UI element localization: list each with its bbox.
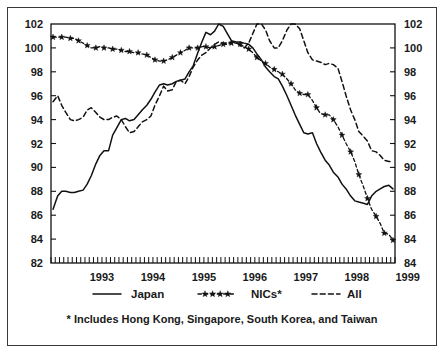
y-axis-left-tick-label: 96 xyxy=(31,90,43,102)
x-axis-tick-label: 1996 xyxy=(243,271,267,283)
y-axis-left-tick-label: 88 xyxy=(31,185,43,197)
series-marker xyxy=(135,50,141,56)
series-line xyxy=(53,37,393,240)
y-axis-left-tick-label: 100 xyxy=(25,42,43,54)
legend-swatch-marker xyxy=(217,291,223,297)
series-marker xyxy=(348,149,354,155)
y-axis-right-tick-label: 98 xyxy=(404,66,416,78)
x-axis-minor-ticks xyxy=(51,257,395,263)
y-axis-left-tick-label: 82 xyxy=(31,257,43,269)
y-axis-left-tick-label: 102 xyxy=(25,18,43,30)
chart-footnote: * Includes Hong Kong, Singapore, South K… xyxy=(67,313,378,325)
x-axis-tick-label: 1994 xyxy=(141,271,166,283)
legend-label: NICs* xyxy=(251,288,282,300)
x-axis-tick-label: 1997 xyxy=(294,271,318,283)
legend-swatch-marker xyxy=(225,291,231,297)
series-marker xyxy=(314,105,320,111)
series-marker xyxy=(84,42,90,48)
series-marker xyxy=(152,57,158,63)
series-marker xyxy=(118,47,124,53)
x-axis-tick-label: 1999 xyxy=(395,271,419,283)
y-axis-right-tick-label: 102 xyxy=(404,18,422,30)
series-line xyxy=(53,24,393,209)
line-chart-canvas: 8284868890929496981001028484868890929496… xyxy=(0,0,445,354)
series-marker xyxy=(110,46,116,52)
series-marker xyxy=(322,112,328,118)
y-axis-left-tick-label: 90 xyxy=(31,161,43,173)
series-nics- xyxy=(50,34,396,243)
series-marker xyxy=(178,50,184,56)
y-axis-left-tick-label: 86 xyxy=(31,209,43,221)
legend-label: Japan xyxy=(131,288,164,300)
series-marker xyxy=(127,48,133,54)
chart-legend: JapanNICs*All xyxy=(93,288,362,300)
series-marker xyxy=(271,66,277,72)
y-axis-right-tick-label: 84 xyxy=(404,257,417,269)
y-axis-right-tick-label: 94 xyxy=(404,114,417,126)
series-marker xyxy=(101,45,107,51)
y-axis-right-tick-label: 96 xyxy=(404,90,416,102)
series-marker xyxy=(59,34,65,40)
x-axis-tick-label: 1998 xyxy=(345,271,369,283)
y-axis-left-tick-label: 92 xyxy=(31,138,43,150)
series-marker xyxy=(93,45,99,51)
legend-item-nics[interactable]: NICs* xyxy=(198,288,282,300)
series-marker xyxy=(381,230,387,236)
legend-item-japan[interactable]: Japan xyxy=(93,288,164,300)
y-axis-left-tick-label: 84 xyxy=(31,233,44,245)
legend-swatch-marker xyxy=(202,291,208,297)
series-marker xyxy=(67,35,73,41)
y-axis-right-tick-label: 86 xyxy=(404,209,416,221)
legend-swatch-marker xyxy=(209,291,215,297)
y-axis-right-tick-label: 90 xyxy=(404,161,416,173)
series-marker xyxy=(203,44,209,50)
x-axis-tick-label: 1995 xyxy=(192,271,216,283)
series-marker xyxy=(297,90,303,96)
y-axis-right-tick-label: 92 xyxy=(404,138,416,150)
plot-frame xyxy=(51,24,395,263)
legend-label: All xyxy=(347,288,362,300)
series-japan xyxy=(53,24,393,209)
y-axis-right-tick-label: 88 xyxy=(404,185,416,197)
series-marker xyxy=(161,58,167,64)
legend-item-all[interactable]: All xyxy=(312,288,362,300)
series-marker xyxy=(339,132,345,138)
y-axis-right-tick-label: 84 xyxy=(404,233,417,245)
x-axis-tick-label: 1993 xyxy=(90,271,114,283)
x-axis-labels: 1993199419951996199719981999 xyxy=(90,271,420,283)
y-axis-left-tick-label: 94 xyxy=(31,114,44,126)
y-axis-left-tick-label: 98 xyxy=(31,66,43,78)
y-axis-right-tick-label: 100 xyxy=(404,42,422,54)
chart-figure: 8284868890929496981001028484868890929496… xyxy=(0,0,445,354)
